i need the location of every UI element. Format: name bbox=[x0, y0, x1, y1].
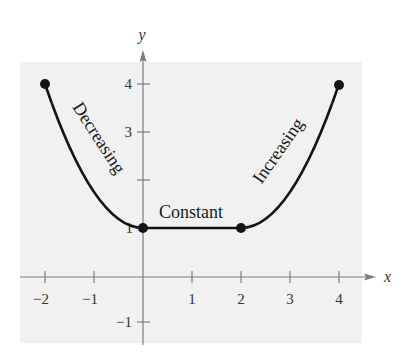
y-tick-label: 4 bbox=[125, 76, 133, 92]
x-tick-label: 1 bbox=[188, 291, 196, 307]
x-tick-label: −2 bbox=[33, 291, 49, 307]
y-axis-label: y bbox=[136, 26, 146, 44]
constant-label: Constant bbox=[159, 202, 223, 222]
point-marker bbox=[236, 223, 246, 233]
x-tick-label: 4 bbox=[335, 291, 343, 307]
function-graph: x −2 −1 1 2 3 4 y 4 bbox=[0, 0, 420, 362]
x-tick-label: 2 bbox=[237, 291, 245, 307]
y-tick-label: 3 bbox=[125, 124, 133, 140]
x-tick-label: −1 bbox=[82, 291, 98, 307]
point-marker bbox=[40, 79, 50, 89]
y-tick-label: −1 bbox=[116, 314, 132, 330]
x-tick-label: 3 bbox=[286, 291, 294, 307]
y-tick-label: 1 bbox=[126, 220, 134, 236]
point-marker bbox=[334, 80, 344, 90]
point-marker bbox=[138, 223, 148, 233]
x-axis-label: x bbox=[383, 268, 391, 285]
